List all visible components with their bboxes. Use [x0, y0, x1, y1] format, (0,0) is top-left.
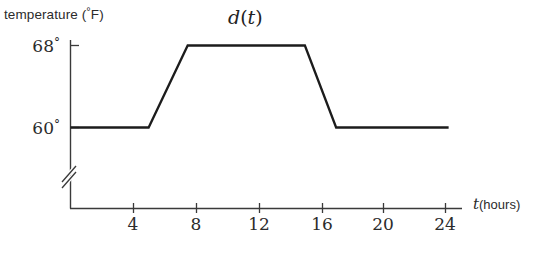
axis-break-icon — [62, 166, 76, 188]
plot-area — [0, 0, 551, 258]
temperature-line-chart: temperature (°F) d(t) 68° 60° 4 8 12 16 … — [0, 0, 551, 258]
data-series-line — [71, 46, 449, 128]
